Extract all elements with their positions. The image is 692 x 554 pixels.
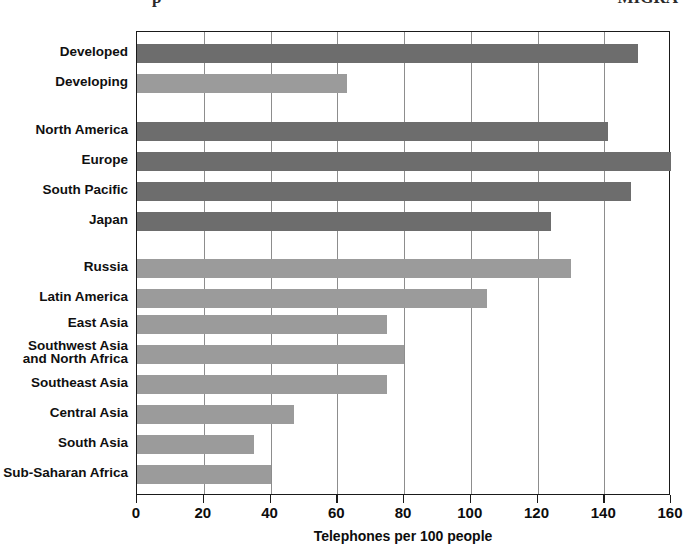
category-label: Europe (81, 153, 128, 166)
x-axis-title: Telephones per 100 people (136, 528, 670, 544)
x-tick-label: 80 (395, 504, 412, 521)
x-tick-160 (670, 495, 671, 503)
bar (137, 152, 671, 171)
x-axis-tick-labels: 020406080100120140160 (0, 504, 692, 526)
category-label: Russia (84, 260, 128, 273)
bar (137, 259, 571, 278)
category-label: Developed (60, 45, 128, 58)
x-tick-label: 40 (261, 504, 278, 521)
category-label: Southwest Asia and North Africa (23, 339, 128, 365)
x-tick-0 (136, 495, 137, 503)
x-tick-label: 140 (591, 504, 616, 521)
x-tick-label: 0 (132, 504, 140, 521)
bar-chart: DevelopedDevelopingNorth AmericaEuropeSo… (0, 0, 692, 554)
bar (137, 74, 347, 93)
x-tick-80 (403, 495, 404, 503)
x-axis-ticks (136, 495, 670, 503)
x-tick-label: 120 (524, 504, 549, 521)
category-label: Central Asia (50, 406, 128, 419)
category-label: South Asia (58, 436, 128, 449)
bar (137, 405, 294, 424)
x-tick-40 (270, 495, 271, 503)
bar (137, 345, 404, 364)
category-label: Japan (89, 213, 128, 226)
category-label: East Asia (68, 316, 128, 329)
category-label: North America (35, 123, 128, 136)
category-label: Developing (55, 75, 128, 88)
bar-series (137, 32, 669, 494)
bar (137, 44, 638, 63)
x-tick-label: 160 (657, 504, 682, 521)
category-label: Southeast Asia (31, 376, 128, 389)
bar (137, 182, 631, 201)
x-tick-120 (537, 495, 538, 503)
x-tick-label: 100 (457, 504, 482, 521)
x-tick-label: 60 (328, 504, 345, 521)
bar (137, 122, 608, 141)
x-tick-100 (470, 495, 471, 503)
bar (137, 465, 271, 484)
bar (137, 289, 487, 308)
x-tick-140 (603, 495, 604, 503)
category-label: Latin America (39, 290, 128, 303)
bar (137, 435, 254, 454)
bar (137, 212, 551, 231)
x-tick-label: 20 (194, 504, 211, 521)
bar (137, 315, 387, 334)
category-axis-labels: DevelopedDevelopingNorth AmericaEuropeSo… (0, 31, 132, 495)
plot-area (136, 31, 670, 495)
category-label: Sub-Saharan Africa (3, 466, 128, 479)
x-tick-20 (203, 495, 204, 503)
x-tick-60 (336, 495, 337, 503)
bar (137, 375, 387, 394)
category-label: South Pacific (42, 183, 128, 196)
